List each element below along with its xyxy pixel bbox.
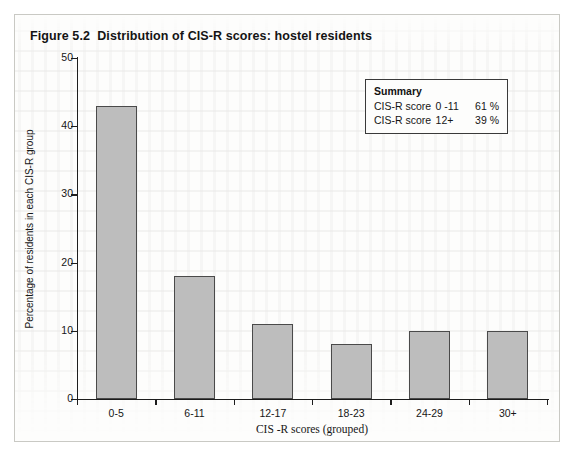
bar-0-5 <box>96 106 137 399</box>
y-tick-label: 30 <box>61 187 73 199</box>
y-tick-label: 10 <box>61 324 73 336</box>
y-axis-title: Percentage of residents in each CIS-R gr… <box>24 129 35 328</box>
summary-row-percent: 39 % <box>469 113 499 127</box>
summary-row-range: 0 -11 <box>436 99 470 113</box>
y-tick-label: 20 <box>61 256 73 268</box>
bar-24-29 <box>409 331 450 399</box>
summary-row-range: 12+ <box>436 113 470 127</box>
summary-row-label: CIS-R score <box>374 99 436 113</box>
scanned-page: Figure 5.2 Distribution of CIS-R scores:… <box>0 0 580 466</box>
figure-panel: Figure 5.2 Distribution of CIS-R scores:… <box>14 14 560 442</box>
bar-30+ <box>487 331 528 399</box>
x-tick-mark <box>390 399 391 405</box>
x-tick-label-6-11: 6-11 <box>155 407 233 419</box>
bar-6-11 <box>174 276 215 399</box>
x-tick-label-18-23: 18-23 <box>312 407 390 419</box>
bar-18-23 <box>331 344 372 399</box>
x-tick-mark <box>234 399 235 405</box>
y-tick-label: 50 <box>61 51 73 63</box>
summary-row-percent: 61 % <box>469 99 499 113</box>
summary-row: CIS-R score0 -1161 % <box>374 99 499 113</box>
summary-row: CIS-R score12+39 % <box>374 113 499 127</box>
y-tick-label: 40 <box>61 119 73 131</box>
x-tick-mark <box>469 399 470 405</box>
x-tick-label-30+: 30+ <box>469 407 547 419</box>
summary-heading: Summary <box>374 85 499 97</box>
x-axis-title: CIS -R scores (grouped) <box>77 423 547 435</box>
figure-title: Figure 5.2 Distribution of CIS-R scores:… <box>30 29 372 43</box>
x-tick-mark <box>312 399 313 405</box>
x-tick-mark <box>77 399 78 405</box>
bar-12-17 <box>252 324 293 399</box>
summary-rows: CIS-R score0 -1161 %CIS-R score12+39 % <box>374 99 499 127</box>
x-tick-label-24-29: 24-29 <box>390 407 468 419</box>
x-tick-label-12-17: 12-17 <box>234 407 312 419</box>
x-tick-mark <box>155 399 156 405</box>
x-tick-mark <box>547 399 548 405</box>
x-tick-label-0-5: 0-5 <box>77 407 155 419</box>
summary-row-label: CIS-R score <box>374 113 436 127</box>
summary-box: Summary CIS-R score0 -1161 %CIS-R score1… <box>365 79 508 134</box>
y-tick-label: 0 <box>67 392 73 404</box>
